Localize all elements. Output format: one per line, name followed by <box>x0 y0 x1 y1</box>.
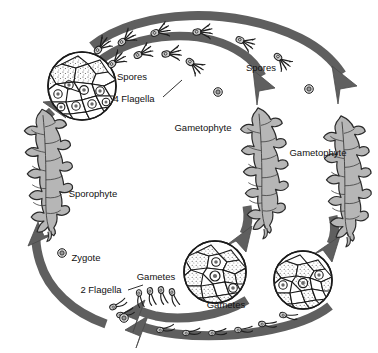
label-spores-right: Spores <box>246 62 276 73</box>
sporophyte-frond <box>24 109 72 241</box>
sporangium-cells <box>48 52 116 120</box>
label-gametes-lower: Gametes <box>207 299 246 310</box>
label-gametes-upper: Gametes <box>137 271 176 282</box>
label-gametophyte-1: Gametophyte <box>174 122 231 133</box>
label-sporophyte: Sporophyte <box>69 188 118 199</box>
label-two-flagella: 2 Flagella <box>80 284 122 295</box>
gametangia-cells-2 <box>274 251 332 309</box>
leader-four-flagella <box>163 80 182 97</box>
arrow-spores-outer <box>92 16 357 104</box>
arrow-zygote-to-sporophyte <box>28 222 106 324</box>
label-zygote: Zygote <box>71 252 100 263</box>
label-gametophyte-2: Gametophyte <box>289 147 346 158</box>
label-spores-left: Spores <box>117 71 147 82</box>
life-cycle-diagram: Spores 4 Flagella Spores Gametophyte Gam… <box>0 0 378 353</box>
leader-two-flagella <box>128 285 143 290</box>
label-four-flagella: 4 Flagella <box>113 93 155 104</box>
gametangia-cells-1 <box>184 241 246 303</box>
